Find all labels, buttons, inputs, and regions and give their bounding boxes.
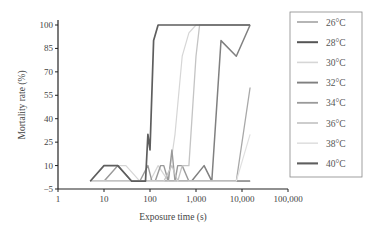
series-line	[90, 25, 250, 181]
y-tick-label: 25	[44, 137, 54, 147]
legend: 26°C28°C30°C32°C34°C36°C38°C40°C	[290, 12, 362, 177]
x-tick-label: 1,000	[186, 194, 207, 204]
y-tick-label: −5	[43, 184, 53, 194]
x-ticks: 1101001,00010,000100,000	[56, 189, 303, 204]
legend-label: 32°C	[326, 78, 346, 88]
mortality-chart: 100857055402510−5 1101001,00010,000100,0…	[0, 0, 373, 232]
series-line	[90, 25, 250, 181]
x-tick-label: 1	[56, 194, 61, 204]
legend-label: 26°C	[326, 18, 346, 28]
y-tick-label: 10	[44, 161, 54, 171]
series-line	[90, 25, 250, 181]
y-axis-title: Mortality rate (%)	[17, 70, 28, 139]
y-tick-label: 40	[44, 114, 54, 124]
y-tick-label: 100	[40, 20, 54, 30]
legend-label: 30°C	[326, 58, 346, 68]
plot-lines	[90, 25, 250, 181]
x-tick-label: 10	[100, 194, 110, 204]
axes: 100857055402510−5 1101001,00010,000100,0…	[17, 20, 303, 223]
legend-label: 40°C	[326, 159, 346, 169]
y-tick-label: 70	[44, 67, 54, 77]
x-tick-label: 100,000	[273, 194, 303, 204]
legend-label: 36°C	[326, 119, 346, 129]
y-ticks: 100857055402510−5	[40, 20, 59, 194]
legend-label: 28°C	[326, 38, 346, 48]
x-tick-label: 100	[143, 194, 157, 204]
legend-label: 38°C	[326, 139, 346, 149]
y-tick-label: 55	[44, 90, 54, 100]
series-line	[90, 134, 250, 181]
series-line	[90, 25, 250, 181]
legend-label: 34°C	[326, 98, 346, 108]
x-axis-title: Exposure time (s)	[139, 212, 207, 223]
y-tick-label: 85	[44, 43, 54, 53]
x-tick-label: 10,000	[230, 194, 255, 204]
